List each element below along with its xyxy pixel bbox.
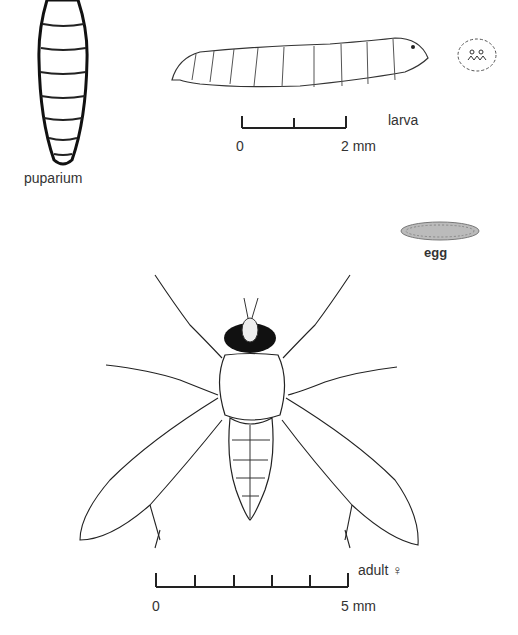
adult-scale-start: 0 — [152, 598, 160, 614]
larva-scale-end: 2 mm — [341, 138, 376, 154]
larva-scale-start: 0 — [236, 138, 244, 154]
puparium-label: puparium — [24, 170, 82, 186]
puparium-drawing — [0, 0, 518, 635]
adult-label: adult ♀ — [358, 562, 403, 578]
larva-label: larva — [388, 112, 418, 128]
adult-scale-end: 5 mm — [341, 598, 376, 614]
egg-label: egg — [424, 245, 447, 260]
